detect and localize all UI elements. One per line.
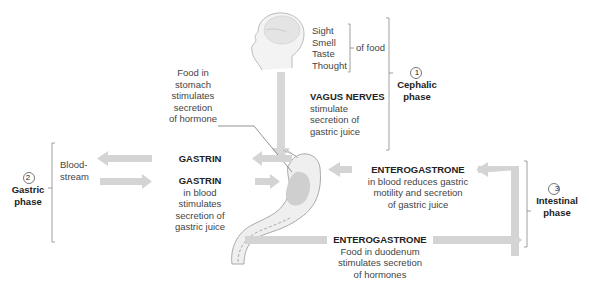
gastric-name: Gastric	[6, 184, 50, 196]
gastric-number: 2	[6, 172, 50, 184]
cephalic-phase-label: 1 Cephalic phase	[395, 79, 439, 102]
food-line: stimulates	[158, 90, 228, 102]
food-in-stomach-text: Food in stomach stimulates secretion of …	[158, 67, 228, 125]
enterogastrone-bottom-text: ENTEROGASTRONE Food in duodenum stimulat…	[327, 234, 433, 280]
enterogastrone-top-text: ENTEROGASTRONE in blood reduces gastric …	[360, 164, 476, 210]
cephalic-name: Cephalic	[395, 79, 439, 91]
enterogastrone-line: in blood reduces gastric	[360, 176, 476, 188]
enterogastrone-line: stimulates secretion	[327, 257, 433, 269]
gastrin-bottom-title: GASTRIN	[150, 175, 250, 187]
gastrin-line: stimulates	[150, 198, 250, 210]
gastric-suffix: phase	[6, 196, 50, 208]
food-line: stomach	[158, 79, 228, 91]
vagus-line: stimulate	[310, 103, 385, 115]
stimulus-taste: Taste	[312, 48, 347, 60]
gastric-phase-label: 2 Gastric phase	[6, 184, 50, 207]
bloodstream-line: stream	[60, 171, 89, 183]
stimulus-smell: Smell	[312, 37, 347, 49]
intestinal-suffix: phase	[532, 207, 582, 219]
vagus-line: secretion of	[310, 114, 385, 126]
stimuli-list: Sight Smell Taste Thought	[312, 25, 347, 71]
gastrin-line: gastric juice	[150, 221, 250, 233]
food-line: of hormone	[158, 113, 228, 125]
stimulus-thought: Thought	[312, 60, 347, 72]
gastrin-line: secretion of	[150, 210, 250, 222]
enterogastrone-line: of hormones	[327, 269, 433, 281]
bloodstream-label: Blood- stream	[60, 159, 89, 182]
vagus-line: gastric juice	[310, 126, 385, 138]
head-illustration	[252, 13, 304, 70]
stimuli-suffix: of food	[356, 42, 385, 54]
vagus-arrow	[272, 72, 290, 160]
enterogastrone-line: Food in duodenum	[327, 246, 433, 258]
cephalic-number: 1	[395, 67, 439, 79]
intestinal-number: 3	[532, 183, 582, 195]
gastrin-top-label: GASTRIN	[155, 153, 245, 165]
enterogastrone-line: of gastric juice	[360, 199, 476, 211]
enterogastrone-line: motility and secretion	[360, 187, 476, 199]
enterogastrone-bottom-title: ENTEROGASTRONE	[327, 234, 433, 246]
enterogastrone-top-title: ENTEROGASTRONE	[360, 164, 476, 176]
intestinal-phase-label: 3 Intestinal phase	[532, 195, 582, 218]
intestinal-name: Intestinal	[532, 195, 582, 207]
vagus-title: VAGUS NERVES	[310, 91, 385, 103]
cephalic-suffix: phase	[395, 91, 439, 103]
diagram-artwork	[0, 0, 589, 295]
vagus-nerves-text: VAGUS NERVES stimulate secretion of gast…	[310, 91, 385, 137]
gastrin-line: in blood	[150, 187, 250, 199]
bloodstream-line: Blood-	[60, 159, 89, 171]
gastrin-bottom-text: GASTRIN in blood stimulates secretion of…	[150, 175, 250, 233]
food-line: Food in	[158, 67, 228, 79]
food-line: secretion	[158, 102, 228, 114]
stimulus-sight: Sight	[312, 25, 347, 37]
